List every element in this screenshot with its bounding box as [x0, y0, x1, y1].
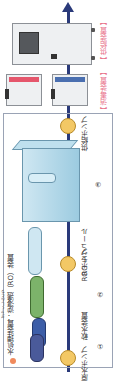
disinfection-unit-red — [6, 74, 42, 106]
ro-pump-icon — [60, 256, 76, 272]
supply-pump-label: 供給ポンプ — [82, 116, 89, 151]
disinfection-device-label: 【 消毒装置 】 — [101, 68, 108, 114]
ro-module-cylinder — [28, 227, 42, 275]
supply-device — [12, 23, 92, 65]
connector-icon — [91, 56, 95, 60]
diagram-title: 水処理装置：逆浸透（RO）装置 — [8, 254, 15, 355]
connector-icon — [91, 28, 95, 32]
marker-2: ② — [97, 290, 104, 298]
water-softener-label: 軟水装置 — [82, 312, 89, 340]
raw-water-pump-label: 原水ポンプ — [82, 346, 89, 381]
supply-screen-icon — [19, 32, 39, 54]
bullet-dot-icon — [10, 358, 16, 364]
marker-1: ① — [97, 342, 104, 350]
ro-pump-label: RO ポンプ — [82, 248, 89, 282]
filter-2-cylinder — [30, 276, 44, 318]
ro-tank — [22, 148, 80, 222]
ro-tank-pipe — [28, 173, 56, 183]
supply-port-icon — [51, 54, 57, 59]
filter-1-cylinder — [30, 334, 44, 362]
raw-water-pump-icon — [60, 350, 76, 366]
supply-device-label: 【 供給装置 】 — [101, 18, 108, 64]
marker-3: ③ — [95, 180, 102, 188]
disinfection-unit-blue — [52, 74, 88, 106]
title-ruby: ぎゃくしんとう — [2, 290, 6, 318]
supply-pump-icon — [60, 118, 76, 134]
flow-arrow-icon — [62, 2, 74, 12]
